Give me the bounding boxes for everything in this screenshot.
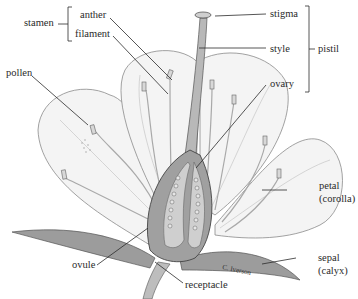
flower-diagram: stamen anther filament pollen stigma sty… bbox=[0, 0, 358, 299]
label-pollen: pollen bbox=[6, 67, 33, 78]
label-sepal: sepal bbox=[318, 252, 340, 263]
label-stamen: stamen bbox=[24, 17, 54, 28]
pistil-bracket bbox=[305, 6, 315, 92]
label-corolla: (corolla) bbox=[319, 193, 356, 205]
label-style: style bbox=[270, 43, 290, 54]
label-ovule: ovule bbox=[72, 259, 96, 270]
label-calyx: (calyx) bbox=[318, 265, 348, 277]
label-filament: filament bbox=[75, 28, 110, 39]
label-ovary: ovary bbox=[270, 78, 295, 89]
label-receptacle: receptacle bbox=[185, 279, 228, 290]
label-anther: anther bbox=[80, 9, 107, 20]
label-stigma: stigma bbox=[270, 8, 298, 19]
label-pistil: pistil bbox=[318, 43, 339, 54]
label-petal: petal bbox=[319, 180, 339, 191]
stigma bbox=[195, 12, 211, 18]
stigma-leader bbox=[215, 14, 266, 16]
stamen-bracket bbox=[58, 7, 72, 41]
